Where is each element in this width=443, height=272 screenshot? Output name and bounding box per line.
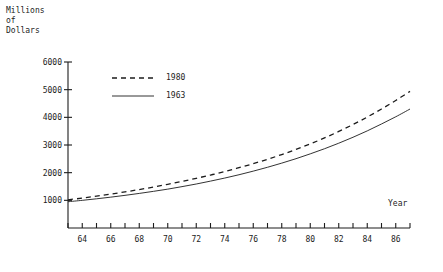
x-axis-tick-label: 68 — [134, 235, 144, 244]
x-axis-tick-label: 74 — [220, 235, 230, 244]
axis-lines — [68, 62, 410, 228]
x-axis-tick-label: 64 — [77, 235, 87, 244]
y-axis-tick-label: 6000 — [26, 58, 62, 67]
x-axis-tick-label: 72 — [191, 235, 201, 244]
x-axis-tick-label: 76 — [248, 235, 258, 244]
plot-area — [0, 0, 443, 272]
x-axis-tick-label: 66 — [106, 235, 116, 244]
data-series-group — [68, 91, 410, 201]
data-series-line-1963 — [68, 109, 410, 202]
x-axis-ticks — [68, 223, 410, 228]
chart-figure: Millions of Dollars Year 600050004000300… — [0, 0, 443, 272]
x-axis-tick-label: 82 — [334, 235, 344, 244]
y-axis-tick-label: 2000 — [26, 169, 62, 178]
y-axis-tick-label: 5000 — [26, 86, 62, 95]
x-axis-tick-label: 78 — [277, 235, 287, 244]
legend-label-1963: 1963 — [166, 91, 185, 100]
x-axis-tick-label: 80 — [305, 235, 315, 244]
x-axis-tick-label: 70 — [163, 235, 173, 244]
y-axis-tick-label: 1000 — [26, 196, 62, 205]
y-axis-tick-label: 3000 — [26, 141, 62, 150]
x-axis-tick-label: 86 — [391, 235, 401, 244]
x-axis-tick-label: 84 — [362, 235, 372, 244]
legend-sample-lines — [112, 78, 154, 96]
legend-label-1980: 1980 — [166, 73, 185, 82]
data-series-line-1980 — [68, 91, 410, 199]
y-axis-tick-label: 4000 — [26, 113, 62, 122]
